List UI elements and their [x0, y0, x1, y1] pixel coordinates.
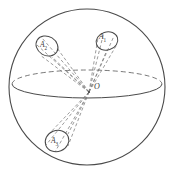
sphere-diagram-svg: [0, 0, 175, 174]
equator-back-arc-dashed: [12, 70, 162, 84]
equator-front-arc-solid: [12, 84, 162, 98]
center-point-marker: [88, 91, 90, 93]
patch-a3-label: A3: [51, 137, 58, 147]
patch-a1-subscript: 1: [104, 37, 107, 43]
patch-a2-label: A2: [40, 41, 47, 51]
patch-a2-subscript: 2: [45, 45, 48, 51]
patch-a3-subscript: 3: [56, 141, 59, 147]
sphere-outline: [9, 9, 165, 165]
sphere-solid-angle-figure: A1 A2 A3 O: [0, 0, 175, 174]
center-point-label: O: [94, 83, 100, 91]
patch-a1-label: A1: [99, 33, 106, 43]
